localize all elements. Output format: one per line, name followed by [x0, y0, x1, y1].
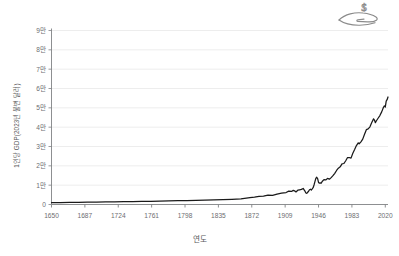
svg-text:1835: 1835: [211, 212, 226, 219]
svg-text:1983: 1983: [345, 212, 360, 219]
svg-text:1798: 1798: [178, 212, 193, 219]
svg-text:1872: 1872: [244, 212, 259, 219]
svg-text:9만: 9만: [36, 26, 46, 34]
svg-text:7만: 7만: [36, 65, 46, 73]
x-tick-labels: 1650168717241761179818351872190919461983…: [44, 212, 393, 219]
svg-text:1761: 1761: [144, 212, 159, 219]
svg-text:3만: 3만: [36, 142, 46, 150]
svg-text:5만: 5만: [36, 103, 46, 111]
svg-text:1909: 1909: [278, 212, 293, 219]
svg-text:4만: 4만: [36, 123, 46, 131]
data-series-line: [52, 97, 389, 203]
svg-text:2020: 2020: [378, 212, 393, 219]
svg-text:1만: 1만: [36, 181, 46, 189]
svg-text:2만: 2만: [36, 161, 46, 169]
svg-text:1687: 1687: [78, 212, 93, 219]
gridlines: [52, 31, 389, 186]
svg-text:0: 0: [42, 201, 46, 208]
plot-canvas: 01만2만3만4만5만6만7만8만9만 16501687172417611798…: [0, 0, 399, 256]
svg-text:1650: 1650: [44, 212, 59, 219]
gdp-per-capita-chart: $ 1인당 GDP(2023년 불변 달러) 01만2만3만4만5만6만7만8만…: [0, 0, 399, 256]
x-axis-title: 연도: [0, 233, 399, 244]
svg-text:8만: 8만: [36, 45, 46, 53]
svg-text:1946: 1946: [311, 212, 326, 219]
svg-text:6만: 6만: [36, 84, 46, 92]
svg-text:1724: 1724: [111, 212, 126, 219]
x-axis-title-label: 연도: [193, 235, 207, 244]
y-tick-labels: 01만2만3만4만5만6만7만8만9만: [36, 26, 51, 208]
axis-lines: [52, 29, 389, 205]
